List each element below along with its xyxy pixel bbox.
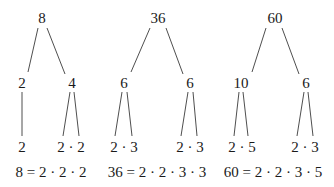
tree2-branch-right	[166, 28, 183, 74]
tree3-branch-right-a	[297, 92, 304, 136]
tree3-branch-right-b	[308, 92, 313, 136]
tree1-branch-right-a	[63, 92, 70, 136]
tree1-branch-left	[28, 28, 38, 72]
tree1-level2-right: 2 · 2	[57, 139, 85, 155]
tree3-branch-left	[252, 28, 266, 72]
tree3-level1-right: 6	[302, 75, 310, 91]
tree3-equation: 60 = 2 · 2 · 3 · 5	[224, 164, 322, 180]
tree2-root: 36	[151, 10, 167, 26]
factor-tree-8: 8 2 4 2 2 · 2 8 = 2 · 2 · 2	[16, 10, 87, 180]
tree1-level2-left: 2	[18, 139, 26, 155]
tree2-branch-right-a	[181, 92, 188, 136]
tree2-level2-right: 2 · 3	[176, 139, 204, 155]
tree2-branch-left-b	[127, 92, 132, 136]
factor-trees-diagram: 8 2 4 2 2 · 2 8 = 2 · 2 · 2 36 6 6 2 · 3…	[0, 0, 334, 187]
tree1-root: 8	[38, 10, 46, 26]
tree3-branch-left-a	[234, 92, 239, 136]
tree1-level1-right: 4	[68, 75, 76, 91]
tree3-level2-right: 2 · 3	[291, 139, 319, 155]
tree2-branch-right-b	[193, 92, 197, 136]
tree2-equation: 36 = 2 · 2 · 3 · 3	[108, 164, 206, 180]
tree2-branch-left-a	[115, 92, 122, 136]
tree3-branch-right	[282, 28, 299, 74]
tree1-equation: 8 = 2 · 2 · 2	[16, 164, 87, 180]
tree3-level1-left: 10	[234, 75, 249, 91]
factor-tree-60: 60 10 6 2 · 5 2 · 3 60 = 2 · 2 · 3 · 5	[224, 10, 322, 180]
tree2-level1-left: 6	[120, 75, 128, 91]
tree2-branch-left	[131, 28, 150, 72]
tree1-branch-right	[47, 28, 65, 74]
tree1-level1-left: 2	[18, 75, 26, 91]
tree2-level1-right: 6	[186, 75, 194, 91]
factor-tree-36: 36 6 6 2 · 3 2 · 3 36 = 2 · 2 · 3 · 3	[108, 10, 206, 180]
tree1-branch-right-b	[74, 92, 79, 136]
tree2-level2-left: 2 · 3	[110, 139, 138, 155]
tree3-branch-left-b	[243, 92, 248, 136]
tree3-level2-left: 2 · 5	[228, 139, 256, 155]
tree3-root: 60	[268, 10, 283, 26]
